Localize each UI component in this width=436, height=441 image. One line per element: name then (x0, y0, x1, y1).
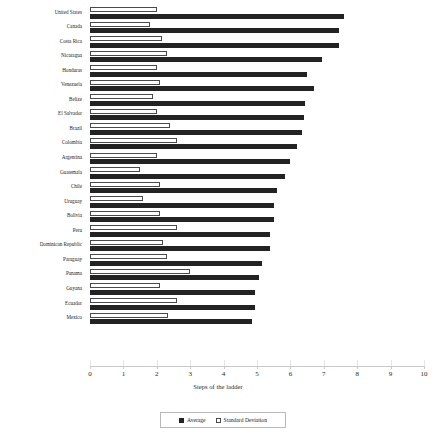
category-label: Uruguay (64, 199, 82, 204)
bar-average (90, 101, 305, 106)
x-axis-tick (424, 366, 425, 369)
category-label: Belize (69, 97, 82, 102)
bar-standard-deviation (90, 109, 157, 114)
bar-average (90, 305, 255, 310)
bar-standard-deviation (90, 94, 153, 99)
category-label: Guyana (66, 286, 82, 291)
bar-average (90, 275, 259, 280)
x-axis-tick (290, 366, 291, 369)
bar-average (90, 261, 262, 266)
x-axis-tick (157, 366, 158, 369)
bar-standard-deviation (90, 7, 157, 12)
bar-average (90, 188, 277, 193)
bar-average (90, 290, 255, 295)
category-label: El Salvador (58, 111, 82, 116)
bar-standard-deviation (90, 153, 157, 158)
x-axis-tick (257, 366, 258, 369)
x-axis-tick-label: 10 (414, 370, 434, 378)
bar-standard-deviation (90, 269, 190, 274)
category-label: Canada (67, 24, 82, 29)
legend-item-standard-deviation: Standard Deviation (216, 417, 267, 423)
bar-average (90, 203, 274, 208)
bar-average (90, 86, 314, 91)
legend-label-average: Average (187, 417, 206, 423)
legend-swatch-standard-deviation (216, 418, 221, 423)
x-axis-tick (391, 366, 392, 369)
category-label: Costa Rica (60, 39, 82, 44)
bar-standard-deviation (90, 22, 150, 27)
bar-average (90, 217, 274, 222)
bar-average (90, 57, 322, 62)
bar-average (90, 72, 307, 77)
bar-standard-deviation (90, 254, 167, 259)
category-label: Bolivia (67, 213, 82, 218)
bar-standard-deviation (90, 211, 160, 216)
category-label: United States (55, 10, 82, 15)
bar-standard-deviation (90, 167, 140, 172)
bar-average (90, 144, 297, 149)
x-axis-tick-label: 3 (180, 370, 200, 378)
bar-average (90, 159, 290, 164)
category-label: Honduras (62, 68, 82, 73)
bar-standard-deviation (90, 36, 162, 41)
x-axis-tick-label: 8 (347, 370, 367, 378)
bar-average (90, 14, 344, 19)
bar-average (90, 232, 270, 237)
x-axis-tick (357, 366, 358, 369)
x-axis-tick (190, 366, 191, 369)
legend-label-standard-deviation: Standard Deviation (224, 417, 267, 423)
bar-standard-deviation (90, 225, 177, 230)
x-axis-tick-label: 5 (247, 370, 267, 378)
category-label: Venezuela (61, 82, 82, 87)
category-label: Panama (66, 271, 82, 276)
category-label: Guatemala (60, 170, 82, 175)
category-label: Peru (73, 228, 82, 233)
bar-average (90, 130, 302, 135)
x-axis-tick-label: 6 (280, 370, 300, 378)
bar-standard-deviation (90, 298, 177, 303)
bar-average (90, 319, 252, 324)
bar-standard-deviation (90, 51, 167, 56)
x-axis-tick (224, 366, 225, 369)
chart-container: United StatesCanadaCosta RicaNicaraguaHo… (0, 0, 436, 441)
category-label: Chile (71, 184, 82, 189)
bar-standard-deviation (90, 123, 170, 128)
bar-average (90, 115, 304, 120)
bar-standard-deviation (90, 313, 168, 318)
x-axis-tick (123, 366, 124, 369)
bar-average (90, 28, 339, 33)
bar-average (90, 174, 285, 179)
category-label: Argentina (62, 155, 82, 160)
bar-standard-deviation (90, 240, 163, 245)
category-label: Dominican Republic (40, 242, 82, 247)
category-label: Colombia (62, 140, 82, 145)
x-axis-tick-label: 0 (80, 370, 100, 378)
bar-average (90, 43, 339, 48)
x-axis-label: Steps of the ladder (0, 383, 436, 390)
bar-average (90, 246, 270, 251)
category-label: Mexico (66, 315, 82, 320)
x-axis-tick-label: 7 (314, 370, 334, 378)
x-axis-tick (324, 366, 325, 369)
legend-swatch-average (179, 418, 184, 423)
category-labels: United StatesCanadaCosta RicaNicaraguaHo… (0, 6, 86, 362)
category-label: Paraguay (63, 257, 82, 262)
x-axis-tick-label: 2 (147, 370, 167, 378)
category-label: Brazil (70, 126, 82, 131)
bar-standard-deviation (90, 283, 160, 288)
bar-standard-deviation (90, 138, 177, 143)
bar-standard-deviation (90, 196, 143, 201)
x-axis-tick (90, 366, 91, 369)
bar-standard-deviation (90, 65, 157, 70)
category-label: Nicaragua (61, 53, 82, 58)
bar-standard-deviation (90, 182, 160, 187)
x-axis-tick-label: 4 (214, 370, 234, 378)
chart-legend: Average Standard Deviation (160, 412, 286, 428)
x-axis-tick-label: 1 (113, 370, 133, 378)
plot-area (90, 6, 424, 362)
x-axis-tick-label: 9 (381, 370, 401, 378)
category-label: Ecuador (65, 301, 82, 306)
legend-item-average: Average (179, 417, 206, 423)
bar-standard-deviation (90, 80, 160, 85)
